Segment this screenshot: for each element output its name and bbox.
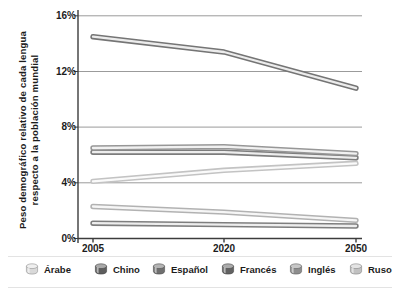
legend-label: Árabe: [44, 264, 71, 275]
y-tick-label: 8%: [36, 121, 76, 132]
cylinder-icon: [288, 262, 304, 276]
x-tick-label: 2020: [202, 243, 246, 254]
legend-label: Inglés: [308, 264, 335, 275]
legend-item-ruso: Ruso: [348, 262, 392, 276]
y-tick-label: 16%: [36, 10, 76, 21]
cylinder-icon: [151, 262, 167, 276]
legend-label: Chino: [113, 264, 140, 275]
cylinder-icon: [24, 262, 40, 276]
series-line-Chino: [93, 37, 356, 88]
legend-item-frances: Francés: [220, 262, 276, 276]
legend-label: Español: [171, 264, 208, 275]
legend-item-espanol: Español: [151, 262, 208, 276]
legend-item-ingles: Inglés: [288, 262, 335, 276]
legend-item-arabe: Árabe: [24, 262, 71, 276]
y-tick-label: 12%: [36, 66, 76, 77]
x-tick-label: 2005: [71, 243, 115, 254]
cylinder-icon: [220, 262, 236, 276]
chart-figure: Peso demográfico relativo de cada lengua…: [0, 0, 399, 291]
cylinder-icon: [93, 262, 109, 276]
legend-label: Ruso: [368, 264, 392, 275]
legend-separator-bottom: [8, 287, 392, 288]
legend-label: Francés: [240, 264, 276, 275]
y-tick-label: 4%: [36, 177, 76, 188]
y-tick-label: 0%: [36, 233, 76, 244]
legend: Árabe Chino Español Francés: [0, 259, 399, 283]
legend-item-chino: Chino: [93, 262, 140, 276]
cylinder-icon: [348, 262, 364, 276]
series-line-Chino: [93, 37, 356, 88]
legend-separator-top: [8, 256, 392, 257]
x-tick-label: 2050: [334, 243, 378, 254]
